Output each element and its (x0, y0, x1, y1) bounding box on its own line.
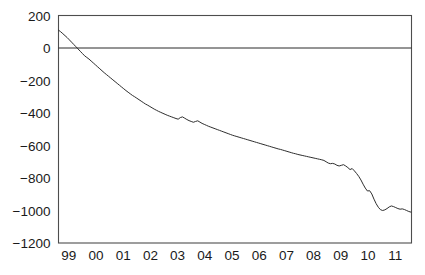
plot-frame (59, 16, 412, 244)
x-tick-label: 00 (89, 248, 104, 263)
line-chart: 2000−200−400−600−800−1000−1200 990001020… (0, 0, 425, 275)
x-tick-label: 05 (224, 248, 239, 263)
y-tick-label: −1000 (13, 204, 51, 219)
x-tick-label: 03 (170, 248, 185, 263)
y-tick-label: −400 (20, 106, 50, 121)
y-tick-label: −600 (20, 139, 50, 154)
x-tick-label: 09 (333, 248, 348, 263)
chart-container: 2000−200−400−600−800−1000−1200 990001020… (0, 0, 425, 275)
x-tick-label: 11 (388, 248, 402, 263)
y-tick-label: −800 (20, 171, 50, 186)
x-tick-label: 04 (197, 248, 213, 263)
x-tick-label: 02 (143, 248, 158, 263)
y-tick-label: 200 (28, 9, 51, 24)
x-tick-label: 07 (279, 248, 294, 263)
x-tick-label: 01 (116, 248, 131, 263)
x-tick-label: 99 (61, 248, 76, 263)
x-tick-label: 06 (252, 248, 267, 263)
y-tick-label: 0 (43, 41, 51, 56)
x-tick-label: 08 (306, 248, 321, 263)
data-series-line (59, 30, 411, 212)
y-tick-label: −1200 (13, 236, 51, 251)
x-tick-label: 10 (360, 248, 375, 263)
x-axis-tick-labels: 99000102030405060708091011 (61, 248, 402, 263)
y-axis-tick-labels: 2000−200−400−600−800−1000−1200 (13, 9, 51, 252)
y-tick-label: −200 (20, 74, 50, 89)
